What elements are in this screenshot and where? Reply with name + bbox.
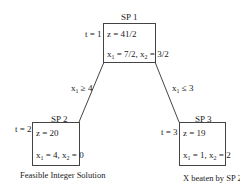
sp2-solution: x1 = 4, x2 = 0 <box>36 150 84 160</box>
sp3-t-label: t = 3 <box>161 127 178 137</box>
sp1-solution: x1 = 7/2, x2 = 3/2 <box>107 49 169 59</box>
sp3-solution: x1 = 1, x2 = 2 <box>183 150 231 160</box>
sp2-z: z = 20 <box>36 128 59 138</box>
sp2-t-label: t = 2 <box>15 124 32 134</box>
sp3-node: z = 19 x1 = 1, x2 = 2 <box>179 122 226 166</box>
sp1-node: z = 41/2 x1 = 7/2, x2 = 3/2 <box>103 23 156 63</box>
edge-label-right: x1 ≤ 3 <box>172 83 193 93</box>
edge-label-left: x1 ≥ 4 <box>71 83 92 93</box>
sp3-note: X beaten by SP 2 <box>183 173 240 183</box>
sp1-z: z = 41/2 <box>107 29 137 39</box>
sp1-t-label: t = 1 <box>85 29 102 39</box>
sp2-note: Feasible Integer Solution <box>20 170 105 180</box>
sp3-z: z = 19 <box>183 128 206 138</box>
sp2-node: z = 20 x1 = 4, x2 = 0 <box>32 122 80 166</box>
sp1-title: SP 1 <box>121 12 137 22</box>
